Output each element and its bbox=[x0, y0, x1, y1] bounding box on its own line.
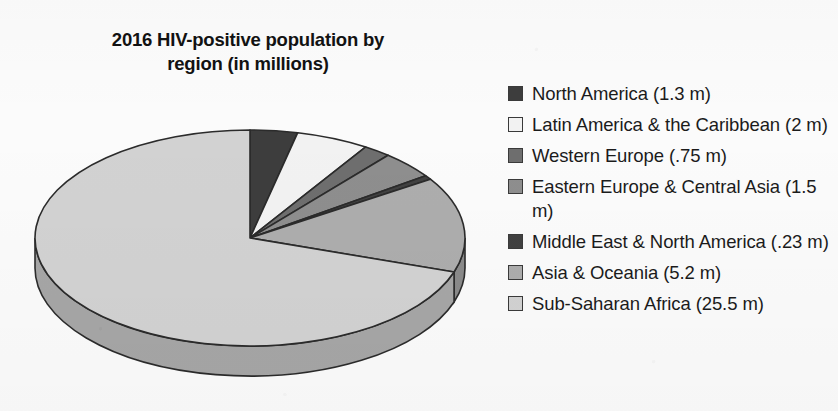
pie-chart bbox=[0, 88, 500, 378]
legend-color-swatch bbox=[508, 117, 523, 132]
legend-item: Sub-Saharan Africa (25.5 m) bbox=[508, 292, 834, 316]
legend-color-swatch bbox=[508, 296, 523, 311]
legend-color-swatch bbox=[508, 179, 523, 194]
legend-item: Western Europe (.75 m) bbox=[508, 144, 834, 168]
pie-chart-svg bbox=[0, 88, 500, 378]
legend-color-swatch bbox=[508, 148, 523, 163]
legend-item-label: North America (1.3 m) bbox=[532, 82, 711, 106]
legend-item-label: Latin America & the Caribbean (2 m) bbox=[532, 113, 828, 137]
legend-color-swatch bbox=[508, 265, 523, 280]
legend-item-label: Western Europe (.75 m) bbox=[532, 144, 727, 168]
legend-item: North America (1.3 m) bbox=[508, 82, 834, 106]
legend-item: Middle East & North America (.23 m) bbox=[508, 230, 834, 254]
pie-top-slices bbox=[35, 130, 465, 346]
legend-color-swatch bbox=[508, 234, 523, 249]
legend-item-label: Eastern Europe & Central Asia (1.5 m) bbox=[532, 175, 834, 223]
legend-item: Eastern Europe & Central Asia (1.5 m) bbox=[508, 175, 834, 223]
legend-item-label: Middle East & North America (.23 m) bbox=[532, 230, 829, 254]
legend-color-swatch bbox=[508, 86, 523, 101]
chart-legend: North America (1.3 m)Latin America & the… bbox=[508, 82, 834, 323]
page-title: 2016 HIV-positive population by region (… bbox=[62, 28, 434, 76]
legend-item-label: Sub-Saharan Africa (25.5 m) bbox=[532, 292, 764, 316]
legend-item: Latin America & the Caribbean (2 m) bbox=[508, 113, 834, 137]
legend-item: Asia & Oceania (5.2 m) bbox=[508, 261, 834, 285]
legend-item-label: Asia & Oceania (5.2 m) bbox=[532, 261, 721, 285]
chart-page: 2016 HIV-positive population by region (… bbox=[0, 0, 838, 411]
